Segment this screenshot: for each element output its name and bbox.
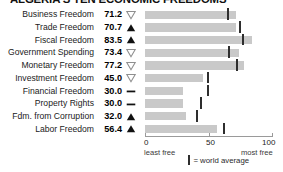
world-average-tick-icon [188, 155, 190, 165]
trend-down-icon [125, 72, 137, 85]
trend-down-icon [125, 47, 137, 60]
world-average-tick [236, 59, 238, 71]
axis-tick-50 [209, 133, 210, 137]
row-value: 45.0 [95, 73, 122, 85]
row-bar [145, 99, 183, 107]
row-label: Financial Freedom [0, 86, 94, 98]
row-bar-track [145, 98, 273, 111]
chart-row: Fiscal Freedom83.5 [0, 34, 283, 47]
chart-x-axis: 0 50 100 least free most free [145, 136, 273, 137]
row-value: 56.4 [95, 124, 122, 136]
chart-row: Labor Freedom56.4 [0, 123, 283, 136]
row-label: Government Spending [0, 47, 94, 59]
chart-row: Business Freedom71.2 [0, 9, 283, 22]
axis-tick-label-100: 100 [262, 138, 275, 147]
axis-tick-100 [272, 133, 273, 137]
row-label: Trade Freedom [0, 22, 94, 34]
row-value: 30.0 [95, 98, 122, 110]
chart-row: Investment Freedom45.0 [0, 72, 283, 85]
trend-flat-icon [125, 98, 137, 111]
row-label: Investment Freedom [0, 73, 94, 85]
chart-row: Fdm. from Corruption32.0 [0, 111, 283, 124]
chart-row: Trade Freedom70.7 [0, 22, 283, 35]
world-average-tick [207, 85, 209, 97]
row-bar-track [145, 72, 273, 85]
row-value: 73.4 [95, 47, 122, 59]
chart-row: Monetary Freedom77.2 [0, 60, 283, 73]
row-bar [145, 125, 217, 133]
chart-row: Financial Freedom30.0 [0, 85, 283, 98]
row-value: 30.0 [95, 86, 122, 98]
trend-up-icon [125, 111, 137, 124]
row-bar [145, 61, 244, 69]
row-bar [145, 11, 236, 19]
row-bar [145, 49, 239, 57]
row-value: 77.2 [95, 60, 122, 72]
row-value: 83.5 [95, 35, 122, 47]
row-value: 71.2 [95, 9, 122, 21]
chart-row: Government Spending73.4 [0, 47, 283, 60]
legend-label: = world average [193, 156, 249, 165]
row-bar-track [145, 9, 273, 22]
chart-legend: = world average [188, 153, 249, 167]
row-bar [145, 87, 183, 95]
trend-up-icon [125, 123, 137, 136]
row-bar-track [145, 60, 273, 73]
trend-up-icon [125, 22, 137, 35]
world-average-tick [223, 123, 225, 135]
economic-freedoms-chart: ALGERIA'S TEN ECONOMIC FREEDOMS Business… [0, 0, 283, 172]
row-label: Labor Freedom [0, 124, 94, 136]
chart-row: Property Rights30.0 [0, 98, 283, 111]
trend-up-icon [125, 34, 137, 47]
row-label: Property Rights [0, 98, 94, 110]
world-average-tick [200, 97, 202, 109]
world-average-tick [239, 21, 241, 33]
axis-tick-label-0: 0 [144, 138, 148, 147]
row-label: Monetary Freedom [0, 60, 94, 72]
world-average-tick [196, 110, 198, 122]
row-bar-track [145, 22, 273, 35]
trend-down-icon [125, 60, 137, 73]
row-bar-track [145, 47, 273, 60]
trend-down-icon [125, 9, 137, 22]
row-label: Fdm. from Corruption [0, 111, 94, 123]
row-bar-track [145, 85, 273, 98]
chart-rows: Business Freedom71.2Trade Freedom70.7Fis… [0, 9, 283, 136]
row-bar-track [145, 111, 273, 124]
row-bar [145, 112, 186, 120]
world-average-tick [242, 34, 244, 46]
world-average-tick [227, 8, 229, 20]
chart-title: ALGERIA'S TEN ECONOMIC FREEDOMS [10, 0, 275, 5]
axis-tick-label-50: 50 [206, 138, 215, 147]
row-label: Fiscal Freedom [0, 35, 94, 47]
row-value: 70.7 [95, 22, 122, 34]
trend-flat-icon [125, 85, 137, 98]
world-average-tick [228, 46, 230, 58]
row-bar-track [145, 34, 273, 47]
axis-tick-0 [145, 133, 146, 137]
row-bar [145, 74, 203, 82]
axis-label-least-free: least free [144, 148, 175, 157]
row-value: 32.0 [95, 111, 122, 123]
row-bar [145, 36, 252, 44]
row-bar [145, 23, 236, 31]
world-average-tick [207, 72, 209, 84]
row-label: Business Freedom [0, 9, 94, 21]
